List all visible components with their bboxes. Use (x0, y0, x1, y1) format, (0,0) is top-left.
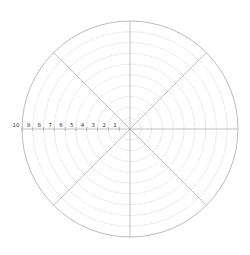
tick-label-2: 2 (102, 122, 106, 128)
spoke-45 (130, 53, 206, 129)
tick-label-3: 3 (92, 122, 96, 128)
radial-axis-labels: 12345678910 (13, 122, 117, 128)
tick-label-4: 4 (81, 122, 85, 128)
tick-label-9: 9 (27, 122, 31, 128)
tick-label-10: 10 (13, 122, 20, 128)
tick-label-5: 5 (70, 122, 74, 128)
tick-label-7: 7 (48, 122, 52, 128)
spoke-315 (130, 129, 206, 205)
polar-chart: 12345678910 (0, 0, 250, 255)
tick-label-1: 1 (113, 122, 117, 128)
tick-label-8: 8 (38, 122, 42, 128)
tick-label-6: 6 (59, 122, 63, 128)
